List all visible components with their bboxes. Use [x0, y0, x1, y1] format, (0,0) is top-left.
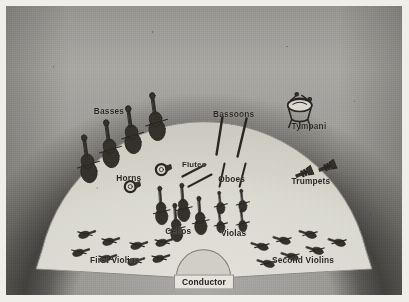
- section-label-second-violins: Second Violins: [272, 255, 334, 265]
- orchestra-seating-figure: Basses Horns Flutes Cellos First Violins…: [0, 0, 409, 302]
- section-label-first-violins: First Violins: [90, 255, 140, 265]
- section-label-violas: Violas: [221, 228, 247, 238]
- photographic-plate: Basses Horns Flutes Cellos First Violins…: [6, 6, 402, 295]
- section-label-bassoons: Bassoons: [213, 109, 254, 119]
- section-label-cellos: Cellos: [165, 226, 191, 236]
- section-label-trumpets: Trumpets: [291, 176, 330, 186]
- section-label-basses: Basses: [94, 106, 124, 116]
- stage-drawing: [6, 6, 402, 295]
- section-label-oboes: Oboes: [218, 174, 245, 184]
- section-label-tympani: Tympani: [291, 121, 326, 131]
- section-label-horns: Horns: [116, 173, 141, 183]
- conductor-label-box: Conductor: [174, 274, 234, 289]
- section-label-flutes: Flutes: [182, 159, 206, 168]
